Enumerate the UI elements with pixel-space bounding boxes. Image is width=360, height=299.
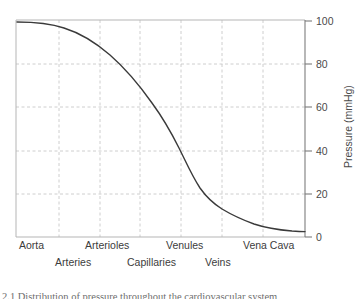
- xlabel-aorta: Aorta: [19, 239, 44, 251]
- pressure-curve: [17, 22, 305, 232]
- figure-caption: 2.1 Distribution of pressure throughout …: [0, 291, 360, 299]
- xlabel-capillaries: Capillaries: [127, 256, 176, 268]
- ytick-label-100: 100: [316, 15, 334, 27]
- y-axis-title: Pressure (mmHg): [342, 85, 354, 168]
- ytick-label-40: 40: [316, 145, 328, 157]
- ytick-label-80: 80: [316, 58, 328, 70]
- pressure-distribution-figure: 100 80 60 40 20 0 Pressure (mmHg) Aorta …: [0, 0, 360, 299]
- ytick-label-20: 20: [316, 188, 328, 200]
- vertical-gridlines: [59, 20, 263, 237]
- figure-caption-text: 2.1 Distribution of pressure throughout …: [2, 291, 360, 299]
- pressure-chart: 100 80 60 40 20 0 Pressure (mmHg) Aorta …: [0, 0, 360, 299]
- xlabel-arterioles: Arterioles: [85, 239, 129, 251]
- y-axis: [305, 20, 312, 237]
- xlabel-arteries: Arteries: [55, 256, 91, 268]
- xlabel-vena-cava: Vena Cava: [243, 239, 295, 251]
- ytick-label-60: 60: [316, 101, 328, 113]
- ytick-label-0: 0: [316, 231, 322, 243]
- xlabel-venules: Venules: [166, 239, 203, 251]
- xlabel-veins: Veins: [205, 256, 231, 268]
